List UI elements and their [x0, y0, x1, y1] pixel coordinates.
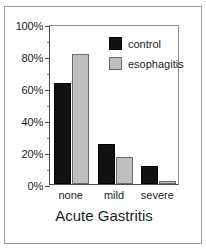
- x-axis-title: Acute Gastritis: [5, 207, 203, 224]
- y-axis-major-tick: [45, 122, 50, 123]
- legend-item-label: control: [128, 38, 161, 50]
- y-axis-minor-tick: [47, 138, 50, 139]
- y-axis-minor-tick: [47, 106, 50, 107]
- legend-item-control: control: [109, 35, 184, 52]
- x-axis-tick-label: severe: [141, 189, 174, 201]
- y-axis-major-tick: [45, 90, 50, 91]
- y-axis-major-tick: [45, 154, 50, 155]
- bar-esophagitis-mild: [116, 157, 133, 184]
- x-axis-tick-label: none: [58, 189, 82, 201]
- legend-item-esophagitis: esophagitis: [109, 55, 184, 72]
- y-axis-major-tick: [45, 186, 50, 187]
- y-axis-tick-label: 20%: [22, 148, 43, 160]
- y-axis-minor-tick: [47, 42, 50, 43]
- chart-figure-frame: 0%20%40%60%80%100% controlesophagitis Ac…: [4, 6, 202, 244]
- y-axis-labels: 0%20%40%60%80%100%: [5, 25, 47, 187]
- chart-legend: controlesophagitis: [109, 35, 184, 75]
- y-axis-major-tick: [45, 26, 50, 27]
- bar-group-none: [54, 26, 89, 184]
- bar-esophagitis-none: [72, 54, 89, 184]
- legend-swatch-icon: [109, 37, 122, 50]
- y-axis-tick-label: 80%: [22, 52, 43, 64]
- bar-control-severe: [141, 166, 158, 184]
- bar-control-mild: [98, 144, 115, 184]
- bar-esophagitis-severe: [159, 181, 176, 184]
- legend-item-label: esophagitis: [128, 58, 184, 70]
- y-axis-tick-label: 60%: [22, 84, 43, 96]
- legend-swatch-icon: [109, 57, 122, 70]
- y-axis-tick-label: 40%: [22, 116, 43, 128]
- y-axis-major-tick: [45, 58, 50, 59]
- x-axis-tick-label: mild: [104, 189, 124, 201]
- y-axis-minor-tick: [47, 170, 50, 171]
- bar-control-none: [54, 83, 71, 184]
- y-axis-tick-label: 0%: [28, 180, 44, 192]
- y-axis-minor-tick: [47, 74, 50, 75]
- y-axis-tick-label: 100%: [16, 20, 43, 32]
